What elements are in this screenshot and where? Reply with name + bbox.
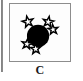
panel-caption-label: C — [9, 63, 71, 81]
scan-edge-artifact — [1, 0, 3, 72]
star-upper-left — [22, 16, 33, 27]
figure-canvas — [10, 4, 70, 61]
figure-panel: C — [0, 0, 83, 81]
figure-box — [9, 3, 71, 62]
